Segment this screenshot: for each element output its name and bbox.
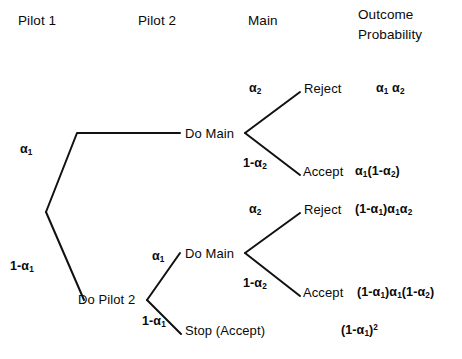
node-do-main-lower: Do Main <box>185 247 234 261</box>
column-header-probability: Probability <box>358 28 422 42</box>
tree-edges-layer <box>0 0 462 359</box>
outcome-stop-accept: Stop (Accept) <box>185 324 265 338</box>
edge-root-to-upper <box>46 133 180 212</box>
branch-label-alpha-2-upper: α2 <box>249 82 262 96</box>
column-header-main: Main <box>248 14 278 28</box>
branch-label-alpha-1-upper: α1 <box>20 143 33 157</box>
edge-lower-main-to-reject <box>245 213 300 253</box>
outcome-accept-1: Accept <box>303 165 343 179</box>
column-header-pilot-1: Pilot 1 <box>18 14 56 28</box>
branch-label-one-minus-alpha-1-inner: 1-α1 <box>142 315 166 329</box>
outcome-reject-2: Reject <box>304 203 341 217</box>
column-header-pilot-2: Pilot 2 <box>138 14 176 28</box>
column-header-outcome: Outcome <box>358 8 413 22</box>
node-do-pilot-2: Do Pilot 2 <box>78 293 135 307</box>
edge-upper-main-to-reject <box>245 92 300 133</box>
decision-tree-figure: Pilot 1 Pilot 2 Main Outcome Probability… <box>0 0 462 359</box>
node-do-main-upper: Do Main <box>185 127 234 141</box>
branch-label-alpha-2-lower: α2 <box>249 203 262 217</box>
probability-stop-accept: (1-α1)2 <box>341 324 378 338</box>
branch-label-alpha-1-inner: α1 <box>152 250 165 264</box>
probability-reject-2: (1-α1)α1α2 <box>355 203 412 217</box>
probability-accept-2: (1-α1)α1(1-α2) <box>357 286 434 300</box>
branch-label-one-minus-alpha-2-lower: 1-α2 <box>243 277 267 291</box>
edge-root-to-pilot2 <box>46 212 84 300</box>
probability-reject-1: α1 α2 <box>376 82 405 96</box>
probability-accept-1: α1(1-α2) <box>355 165 400 179</box>
branch-label-one-minus-alpha-2-upper: 1-α2 <box>243 157 267 171</box>
outcome-reject-1: Reject <box>304 82 341 96</box>
branch-label-one-minus-alpha-1-lower: 1-α1 <box>10 260 34 274</box>
outcome-accept-2: Accept <box>303 286 343 300</box>
